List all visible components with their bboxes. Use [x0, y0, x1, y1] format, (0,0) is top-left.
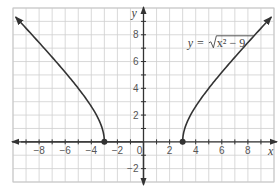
x-tick-label: −8	[33, 145, 45, 156]
endpoint-dot	[180, 139, 186, 145]
graph-canvas: −8−6−4−2024688642−2 x y y = x² − 9	[0, 0, 279, 189]
x-tick-label: −4	[86, 145, 98, 156]
y-tick-label: 4	[133, 83, 139, 94]
y-tick-label: 8	[133, 29, 139, 40]
x-tick-label: 0	[137, 145, 143, 156]
y-tick-label: −2	[127, 163, 139, 174]
x-tick-label: 6	[219, 145, 225, 156]
y-tick-label: 6	[133, 56, 139, 67]
x-tick-label: 8	[245, 145, 251, 156]
x-tick-label: −2	[112, 145, 124, 156]
x-tick-label: 4	[193, 145, 199, 156]
x-tick-label: −6	[59, 145, 71, 156]
equation-radicand: x² − 9	[217, 36, 245, 50]
y-axis-label: y	[131, 6, 138, 20]
function-graph: −8−6−4−2024688642−2 x y y = x² − 9	[0, 0, 279, 189]
x-tick-label: 2	[167, 145, 173, 156]
equation-lhs: y =	[187, 36, 204, 50]
y-tick-label: 2	[133, 110, 139, 121]
endpoint-dot	[101, 139, 107, 145]
equation-annotation: y = x² − 9	[187, 36, 254, 50]
x-axis-label: x	[267, 144, 274, 158]
